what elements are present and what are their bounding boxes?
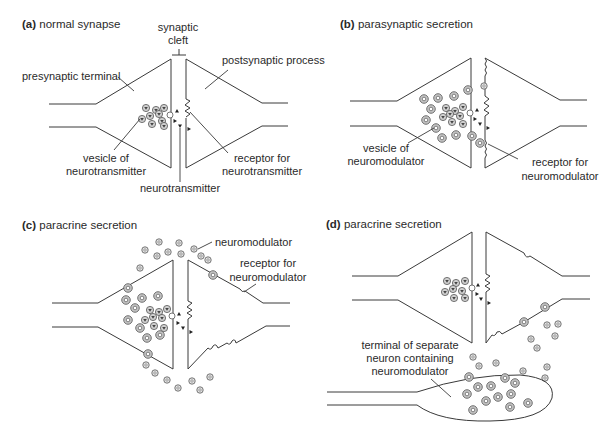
- label-vesicle-nt-1: vesicle of: [83, 152, 130, 164]
- label-postsynaptic-process: postsynaptic process: [222, 54, 325, 66]
- postsynaptic-outline-bottom: [188, 326, 290, 369]
- label-neurotransmitter: neurotransmitter: [140, 182, 220, 194]
- label-presynaptic-terminal: presynaptic terminal: [22, 70, 120, 82]
- panel-a-title: (a) normal synapse: [22, 18, 120, 30]
- label-vesicle-nm-2: neuromodulator: [347, 155, 424, 167]
- panel-c-title: (c) paracrine secretion: [22, 219, 137, 231]
- panel-b-title: (b) parasynaptic secretion: [340, 18, 473, 30]
- neurotransmitter-receptor: [485, 232, 490, 343]
- cleft-marker: [172, 49, 186, 55]
- label-synaptic-cleft-1: synaptic: [158, 21, 199, 33]
- leader-separate-neuron: [431, 379, 451, 397]
- label-receptor-nt-1: receptor for: [234, 152, 291, 164]
- neurotransmitter-receptor: [185, 59, 190, 117]
- label-neuromodulator: neuromodulator: [215, 236, 292, 248]
- neurotransmitter-vesicles: [141, 305, 175, 331]
- neurotransmitter-vesicles: [441, 277, 475, 301]
- leader-neuromodulator: [198, 242, 212, 249]
- label-separate-neuron-2: neuron containing: [366, 352, 453, 364]
- panel-c: (c) paracrine secretion: [22, 219, 307, 393]
- label-receptor-nm-2: neuromodulator: [229, 271, 306, 283]
- label-separate-neuron-1: terminal of separate: [361, 339, 458, 351]
- neurotransmitter-vesicles: [138, 104, 173, 129]
- terminal-neuromodulator-vesicles: [463, 373, 533, 415]
- leader-receptor: [244, 284, 256, 292]
- label-vesicle-nm-1: vesicle of: [363, 142, 410, 154]
- postsynaptic-outline-top: [486, 232, 590, 276]
- synapse-figure: (a) normal synapse synaptic cleft presyn…: [0, 0, 611, 438]
- label-receptor-nt-2: neurotransmitter: [222, 165, 302, 177]
- panel-d: (d) paracrine secretion: [326, 218, 590, 421]
- label-receptor-nm-1: receptor for: [240, 257, 297, 269]
- panel-b: (b) parasynaptic secretion vesicle of ne…: [340, 18, 599, 182]
- label-receptor-nm-2: neuromodulator: [521, 170, 598, 182]
- neurotransmitter-molecules: [174, 109, 192, 131]
- free-neuromodulators: [137, 239, 218, 393]
- neurotransmitter-molecules: [476, 283, 492, 305]
- neuromodulator-receptor-membrane: [484, 58, 489, 168]
- neurotransmitter-receptor: [187, 260, 192, 369]
- leader-vesicle: [408, 128, 434, 143]
- leader-receptor: [190, 112, 228, 153]
- label-receptor-nm-1: receptor for: [532, 156, 589, 168]
- panel-d-title: (d) paracrine secretion: [326, 218, 442, 230]
- neurotransmitter-vesicles: [439, 103, 473, 127]
- label-separate-neuron-3: neuromodulator: [371, 365, 448, 377]
- postsynaptic-outline-bottom: [486, 299, 590, 343]
- leader-postsynaptic: [205, 70, 228, 89]
- label-synaptic-cleft-2: cleft: [168, 34, 188, 46]
- neurotransmitter-molecules: [474, 108, 491, 130]
- free-neuromodulators: [470, 321, 561, 381]
- panel-a: (a) normal synapse synaptic cleft presyn…: [22, 18, 325, 194]
- leader-vesicle: [114, 119, 140, 150]
- postsynaptic-outline-top: [485, 58, 587, 100]
- label-vesicle-nt-2: neurotransmitter: [66, 165, 146, 177]
